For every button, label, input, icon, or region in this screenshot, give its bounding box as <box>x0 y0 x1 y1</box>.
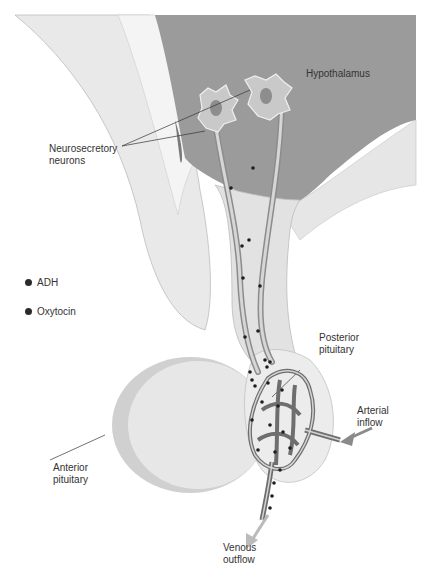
anterior-pituitary <box>112 357 268 493</box>
arterial-inflow-arrow <box>340 428 372 446</box>
label-arterial-inflow: Arterial inflow <box>357 405 389 429</box>
legend-item-oxytocin: Oxytocin <box>25 306 76 317</box>
infundibulum-stalk <box>215 185 300 370</box>
label-posterior-pituitary: Posterior pituitary <box>319 332 359 356</box>
legend-item-adh: ADH <box>25 277 58 288</box>
label-neurosecretory-neurons: Neurosecretory neurons <box>49 143 117 167</box>
legend-label-oxytocin: Oxytocin <box>37 306 76 317</box>
label-hypothalamus: Hypothalamus <box>306 68 370 80</box>
label-anterior-pituitary: Anterior pituitary <box>53 462 88 486</box>
adh-dot-icon <box>25 279 32 286</box>
legend-label-adh: ADH <box>37 277 58 288</box>
label-venous-outflow: Venous outflow <box>223 542 256 566</box>
oxytocin-dot-icon <box>25 308 32 315</box>
